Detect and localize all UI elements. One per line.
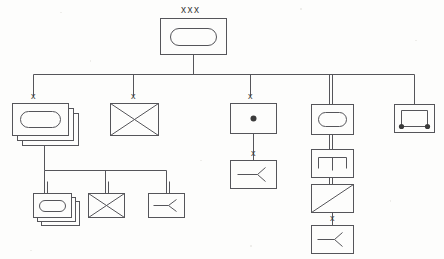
node-cross-label: x [131,92,136,101]
scan-speckle [415,40,417,41]
scan-speckle [250,245,252,247]
figure-canvas: xxx x x x x x [0,0,444,259]
node-stacked-stadium-child[interactable] [34,194,80,226]
scan-speckle [390,200,391,202]
root-node-label: xxx [181,5,201,15]
node-stacked-stadium-label: x [31,92,36,101]
node-cross[interactable] [111,104,159,136]
root-node-stadium-glyph [171,29,217,46]
node-open-rect-terminal-right-dot [425,124,430,129]
node-stadium-bus-glyph [319,113,347,127]
node-open-rect-terminals-glyph [402,111,428,127]
node-stacked-stadium[interactable] [13,104,79,146]
node-dot-glyph [251,116,257,122]
node-cross-glyph [111,104,159,136]
diagram-svg [0,0,444,259]
node-fork-under-dot-glyph [238,168,266,182]
drop-to-node-stadium-bus [330,75,333,105]
node-fork-bottom[interactable] [312,226,354,254]
node-dot-label: x [248,92,253,101]
node-cross-child[interactable] [89,194,125,218]
node-open-rect-terminal-left-dot [399,124,404,129]
node-fork-child-glyph [154,200,177,212]
node-fork-under-dot[interactable] [231,161,277,189]
node-diagonal[interactable] [312,185,354,213]
node-pi-divider-to-diagonal-connector [330,178,333,185]
node-fork-bottom-label: x [330,214,335,223]
node-fork-under-dot-label: x [251,149,256,158]
node-dot[interactable] [231,104,277,134]
node-stadium-bus-to-pi-connector [330,135,333,150]
node-fork-bottom-glyph [318,233,343,247]
scan-speckle [60,12,62,13]
node-fork-child[interactable] [149,194,185,218]
node-stadium-bus[interactable] [312,105,354,135]
scan-speckle [200,160,202,161]
root-node[interactable] [161,19,227,55]
scan-speckle [300,8,302,10]
scan-speckle [90,60,91,62]
node-open-rect-terminals[interactable] [395,105,435,133]
node-pi-divider-glyph [319,158,347,171]
scan-speckle [30,250,32,251]
node-pi-divider[interactable] [312,150,354,178]
node-cross-child-glyph [89,194,125,218]
node-diagonal-glyph [312,185,354,213]
node-stadium-bus-box [312,105,354,135]
